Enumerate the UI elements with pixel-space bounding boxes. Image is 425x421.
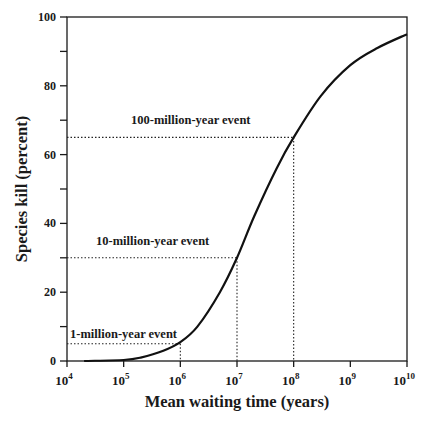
x-tick-label: 1010 bbox=[393, 371, 416, 388]
x-tick-label: 106 bbox=[169, 371, 187, 388]
y-tick-label: 100 bbox=[38, 10, 56, 24]
event-labels: 1-million-year event10-million-year even… bbox=[70, 113, 251, 340]
y-axis-title: Species kill (percent) bbox=[12, 116, 31, 262]
y-tick-label: 60 bbox=[44, 148, 56, 162]
plot-frame bbox=[67, 17, 407, 361]
kill-curve-chart: 020406080100 1041051061071081091010 1-mi… bbox=[0, 0, 425, 421]
y-axis-ticks: 020406080100 bbox=[38, 10, 67, 368]
x-tick-label: 109 bbox=[339, 371, 357, 388]
x-axis-ticks: 1041051061071081091010 bbox=[55, 361, 415, 388]
y-tick-label: 0 bbox=[50, 354, 56, 368]
event-label: 10-million-year event bbox=[96, 234, 210, 248]
event-label: 1-million-year event bbox=[70, 327, 178, 341]
event-label: 100-million-year event bbox=[131, 113, 251, 127]
kill-curve-line bbox=[84, 34, 407, 361]
y-tick-label: 20 bbox=[44, 285, 56, 299]
x-tick-label: 104 bbox=[55, 371, 73, 388]
y-tick-label: 80 bbox=[44, 79, 56, 93]
y-tick-label: 40 bbox=[44, 216, 56, 230]
x-axis-title: Mean waiting time (years) bbox=[145, 392, 330, 411]
x-tick-label: 108 bbox=[282, 371, 300, 388]
x-tick-label: 105 bbox=[112, 371, 130, 388]
x-tick-label: 107 bbox=[225, 371, 243, 388]
